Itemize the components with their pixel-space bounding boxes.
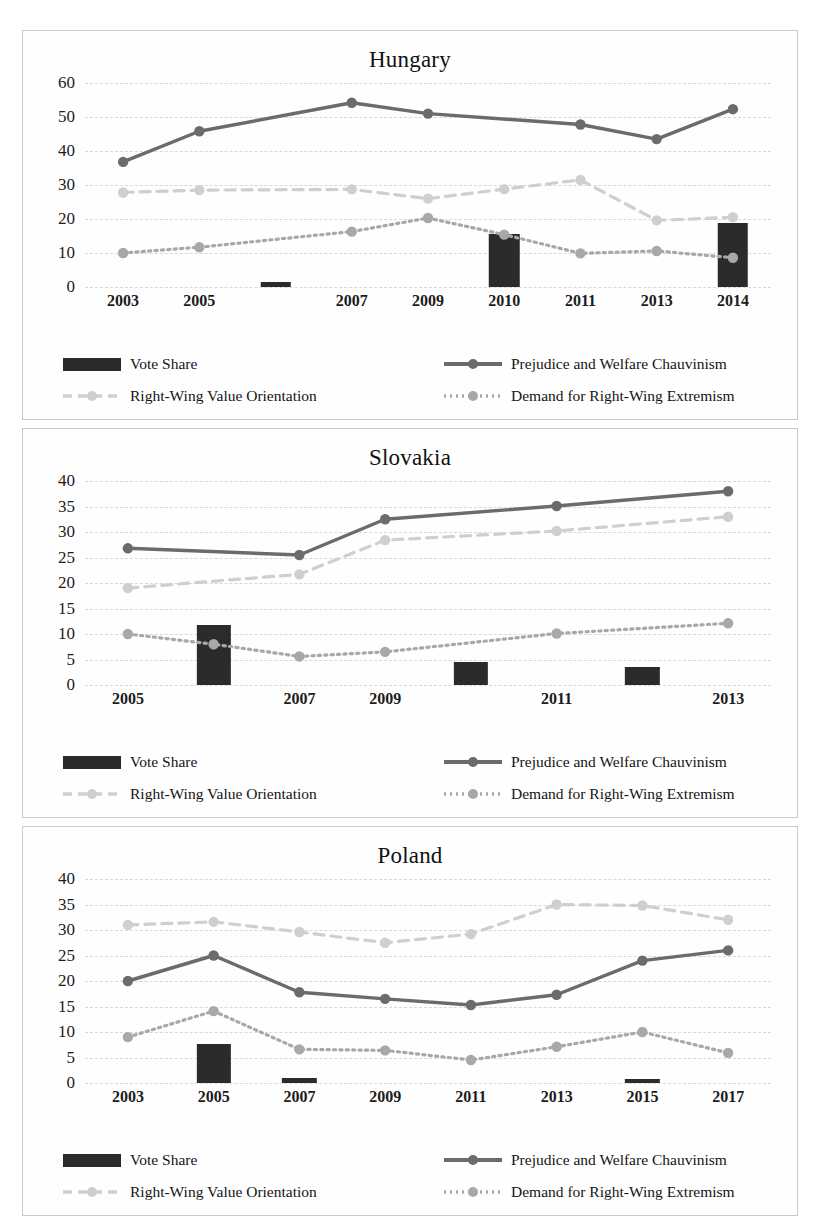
rwvo-line-icon xyxy=(63,1185,121,1199)
legend-item-vote-share[interactable]: Vote Share xyxy=(63,355,418,373)
y-axis-tick-label: 25 xyxy=(58,946,75,966)
data-point-marker xyxy=(118,157,128,167)
data-point-marker xyxy=(294,651,304,661)
legend-item-prejudice[interactable]: Prejudice and Welfare Chauvinism xyxy=(418,753,773,771)
data-point-marker xyxy=(347,226,357,236)
x-axis-tick-label: 2005 xyxy=(198,1088,230,1106)
plot-area-slovakia: 051015202530354020052007200920112013 xyxy=(85,481,771,685)
legend-item-rwvo[interactable]: Right-Wing Value Orientation xyxy=(63,785,418,803)
drwe-line-icon xyxy=(444,1185,502,1199)
data-point-marker xyxy=(294,569,304,579)
y-axis-tick-label: 20 xyxy=(58,573,75,593)
legend-item-drwe[interactable]: Demand for Right-Wing Extremism xyxy=(418,1183,773,1201)
legend-label-prejudice: Prejudice and Welfare Chauvinism xyxy=(511,355,727,373)
data-point-marker xyxy=(208,1006,218,1016)
data-point-marker xyxy=(123,976,133,986)
x-axis-tick-label: 2005 xyxy=(112,690,144,708)
legend-slovakia: Vote Share Prejudice and Welfare Chauvin… xyxy=(63,753,773,803)
y-axis-tick-label: 0 xyxy=(67,675,76,695)
y-axis-tick-label: 20 xyxy=(58,971,75,991)
data-point-marker xyxy=(723,618,733,628)
data-point-marker xyxy=(723,486,733,496)
legend-item-vote-share[interactable]: Vote Share xyxy=(63,1151,418,1169)
plot-wrap-hungary: 0102030405060200320052007200920102011201… xyxy=(27,77,779,309)
data-point-marker xyxy=(723,512,733,522)
x-axis-tick-label: 2009 xyxy=(412,292,444,310)
data-point-marker xyxy=(499,184,509,194)
data-point-marker xyxy=(651,134,661,144)
data-point-marker xyxy=(423,108,433,118)
y-axis-tick-label: 50 xyxy=(58,107,75,127)
data-point-marker xyxy=(723,915,733,925)
legend-label-drwe: Demand for Right-Wing Extremism xyxy=(511,1183,735,1201)
legend-item-rwvo[interactable]: Right-Wing Value Orientation xyxy=(63,1183,418,1201)
data-point-marker xyxy=(380,535,390,545)
legend-item-drwe[interactable]: Demand for Right-Wing Extremism xyxy=(418,387,773,405)
rwvo-line-icon xyxy=(63,389,121,403)
data-point-marker xyxy=(551,628,561,638)
data-point-marker xyxy=(551,990,561,1000)
series-layer xyxy=(85,481,771,685)
x-axis-tick-label: 2011 xyxy=(541,690,572,708)
data-point-marker xyxy=(294,550,304,560)
x-axis-tick-label: 2007 xyxy=(283,690,315,708)
x-axis-tick-label: 2011 xyxy=(455,1088,486,1106)
y-axis-tick-label: 0 xyxy=(67,1073,76,1093)
legend-label-vote-share: Vote Share xyxy=(130,1151,197,1169)
legend-item-prejudice[interactable]: Prejudice and Welfare Chauvinism xyxy=(418,355,773,373)
legend-item-rwvo[interactable]: Right-Wing Value Orientation xyxy=(63,387,418,405)
page-title: Poland xyxy=(23,827,797,869)
data-point-marker xyxy=(723,945,733,955)
legend-label-drwe: Demand for Right-Wing Extremism xyxy=(511,785,735,803)
data-point-marker xyxy=(347,184,357,194)
series-layer xyxy=(85,83,771,287)
drwe-line-icon xyxy=(444,389,502,403)
legend-label-rwvo: Right-Wing Value Orientation xyxy=(130,387,317,405)
x-axis-tick-label: 2015 xyxy=(626,1088,658,1106)
data-point-marker xyxy=(194,242,204,252)
data-point-marker xyxy=(123,583,133,593)
y-axis-tick-label: 15 xyxy=(58,997,75,1017)
x-axis-tick-label: 2013 xyxy=(641,292,673,310)
data-point-marker xyxy=(551,526,561,536)
data-point-marker xyxy=(294,1044,304,1054)
chart-panel-hungary: Hungary 01020304050602003200520072009201… xyxy=(22,30,798,420)
data-point-marker xyxy=(728,253,738,263)
data-point-marker xyxy=(651,215,661,225)
page-title: Slovakia xyxy=(23,429,797,471)
y-axis-tick-label: 10 xyxy=(58,624,75,644)
x-axis-tick-label: 2014 xyxy=(717,292,749,310)
drwe-line-icon xyxy=(444,787,502,801)
data-point-marker xyxy=(380,938,390,948)
y-axis-tick-label: 30 xyxy=(58,175,75,195)
y-axis-tick-label: 30 xyxy=(58,522,75,542)
x-axis-tick-label: 2005 xyxy=(183,292,215,310)
series-line xyxy=(128,623,728,656)
x-axis-tick-label: 2011 xyxy=(565,292,596,310)
rwvo-line-icon xyxy=(63,787,121,801)
series-line xyxy=(128,1011,728,1060)
data-point-marker xyxy=(728,212,738,222)
x-axis-tick-label: 2013 xyxy=(712,690,744,708)
y-axis-tick-label: 0 xyxy=(67,277,76,297)
legend-item-drwe[interactable]: Demand for Right-Wing Extremism xyxy=(418,785,773,803)
data-point-marker xyxy=(208,639,218,649)
data-point-marker xyxy=(723,1048,733,1058)
data-point-marker xyxy=(637,1027,647,1037)
data-point-marker xyxy=(380,994,390,1004)
data-point-marker xyxy=(575,248,585,258)
y-axis-tick-label: 35 xyxy=(58,895,75,915)
legend-item-prejudice[interactable]: Prejudice and Welfare Chauvinism xyxy=(418,1151,773,1169)
prejudice-line-icon xyxy=(444,755,502,769)
y-axis-tick-label: 35 xyxy=(58,497,75,517)
x-axis-tick-label: 2003 xyxy=(112,1088,144,1106)
y-axis-tick-label: 40 xyxy=(58,141,75,161)
data-point-marker xyxy=(118,187,128,197)
chart-panel-poland: Poland 051015202530354020032005200720092… xyxy=(22,826,798,1216)
legend-item-vote-share[interactable]: Vote Share xyxy=(63,753,418,771)
data-point-marker xyxy=(551,1042,561,1052)
data-point-marker xyxy=(499,229,509,239)
legend-label-prejudice: Prejudice and Welfare Chauvinism xyxy=(511,1151,727,1169)
gridline xyxy=(85,685,771,686)
data-point-marker xyxy=(380,1045,390,1055)
